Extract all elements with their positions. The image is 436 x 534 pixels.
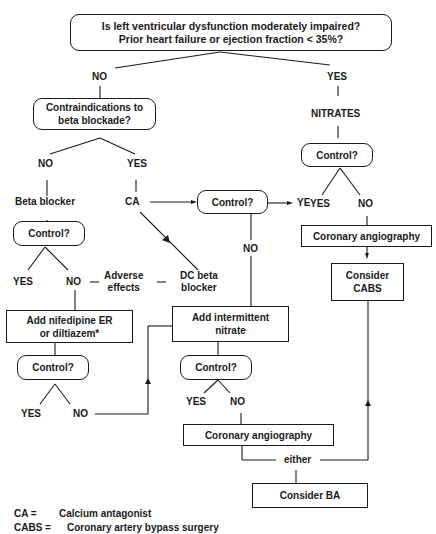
label-adverse-effects: Adverse effects bbox=[104, 270, 143, 294]
control-nitrates: Control? bbox=[301, 143, 373, 167]
control-calcium-antagonist: Control? bbox=[197, 190, 268, 214]
consider-cabs-box: Consider CABS bbox=[331, 263, 404, 301]
add-nifedipine-box: Add nifedipine ER or diltiazem* bbox=[6, 310, 133, 343]
label-nitrates: NITRATES bbox=[311, 108, 360, 120]
control-beta-blocker: Control? bbox=[13, 221, 85, 246]
question-contraindications: Contraindications to beta blockade? bbox=[33, 98, 156, 130]
label-no-contra: NO bbox=[38, 158, 53, 170]
legend-ca: CA =Calcium antagonist bbox=[14, 508, 151, 520]
label-yes-contra: YES bbox=[127, 158, 147, 170]
control-nifedipine: Control? bbox=[17, 355, 89, 380]
consider-ba-box: Consider BA bbox=[252, 483, 368, 508]
label-yes-nitrates: YES bbox=[310, 198, 330, 210]
coronary-angiography-right: Coronary angiography bbox=[301, 225, 432, 247]
control-intermittent-nitrate: Control? bbox=[180, 355, 252, 380]
label-no-nitrate2: NO bbox=[230, 396, 245, 408]
label-dc-beta-blocker: DC beta blocker bbox=[180, 270, 218, 294]
legend-cabs: CABS =Coronary artery bypass surgery bbox=[14, 522, 219, 534]
label-yes-bb: YES bbox=[13, 276, 33, 288]
label-no-bb: NO bbox=[66, 276, 81, 288]
add-intermittent-nitrate-box: Add intermittent nitrate bbox=[172, 306, 289, 342]
label-beta-blocker: Beta blocker bbox=[15, 196, 75, 208]
label-no-nitrates: NO bbox=[358, 198, 373, 210]
question-line-1: Is left ventricular dysfunction moderate… bbox=[102, 20, 360, 33]
label-yes-nif: YES bbox=[21, 408, 41, 420]
label-no-top: NO bbox=[92, 71, 107, 83]
question-lv-dysfunction: Is left ventricular dysfunction moderate… bbox=[70, 14, 392, 51]
label-no-nif: NO bbox=[73, 408, 88, 420]
label-yes-top: YES bbox=[327, 71, 347, 83]
coronary-angiography-center: Coronary angiography bbox=[183, 424, 334, 446]
label-no-ca: NO bbox=[243, 243, 258, 255]
label-yes-nitrate2: YES bbox=[186, 396, 206, 408]
question-line-2: Prior heart failure or ejection fraction… bbox=[119, 33, 343, 46]
label-ca: CA bbox=[125, 196, 139, 208]
label-either: either bbox=[281, 454, 314, 466]
